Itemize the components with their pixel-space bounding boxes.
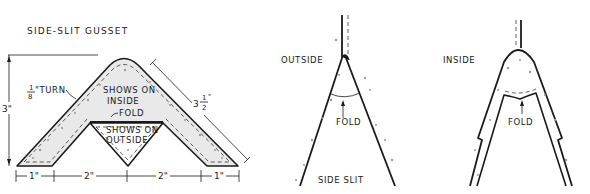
dim-side-suffix: ": [208, 93, 211, 101]
inside-view: INSIDE FOLD: [443, 20, 572, 186]
gusset-inner-outline: [477, 93, 566, 186]
label-inside: INSIDE: [443, 55, 475, 65]
turn-frac-den: 8: [28, 93, 32, 101]
label-fold-inside: FOLD: [508, 117, 533, 127]
fold-curve: [331, 93, 360, 97]
arrow-up-icon: [7, 56, 11, 62]
figure-title: SIDE-SLIT GUSSET: [27, 26, 128, 36]
label-fold: FOLD: [119, 108, 144, 118]
label-side-slit: SIDE SLIT: [318, 175, 364, 185]
fold-seam: [505, 89, 536, 93]
label-fold-outside: FOLD: [336, 117, 361, 127]
dim-side-frac-den: 2: [202, 104, 206, 112]
outside-view: OUTSIDE FOLD SIDE SLIT: [281, 15, 395, 186]
label-turn: "TURN: [35, 85, 66, 95]
dim-bottom-2: 2": [84, 171, 94, 181]
dim-bottom-1: 1": [29, 171, 39, 181]
arrow-down-icon: [7, 159, 11, 165]
label-shows-on-inside-1: SHOWS ON: [103, 85, 156, 95]
label-shows-on-outside-2: OUTSIDE: [106, 135, 148, 145]
dim-height: 3": [2, 104, 12, 114]
arrow-up-icon: [341, 100, 345, 106]
arrow-up-icon: [520, 100, 524, 106]
gusset-pattern: SIDE-SLIT GUSSET SHOWS ON INSIDE FOLD SH…: [2, 26, 250, 182]
dim-bottom-4: 1": [214, 171, 224, 181]
turn-frac-num: 1: [29, 84, 33, 92]
gusset-diagram: SIDE-SLIT GUSSET SHOWS ON INSIDE FOLD SH…: [0, 0, 590, 194]
dim-side-frac-num: 1: [202, 94, 206, 102]
bottom-dimensions: 1" 2" 2" 1": [16, 170, 239, 182]
label-shows-on-outside-1: SHOWS ON: [106, 125, 159, 135]
label-shows-on-inside-2: INSIDE: [107, 96, 139, 106]
dim-bottom-3: 2": [158, 171, 168, 181]
label-outside: OUTSIDE: [281, 55, 323, 65]
dim-side-whole: 3: [193, 99, 199, 109]
turn-leader: [66, 90, 76, 99]
